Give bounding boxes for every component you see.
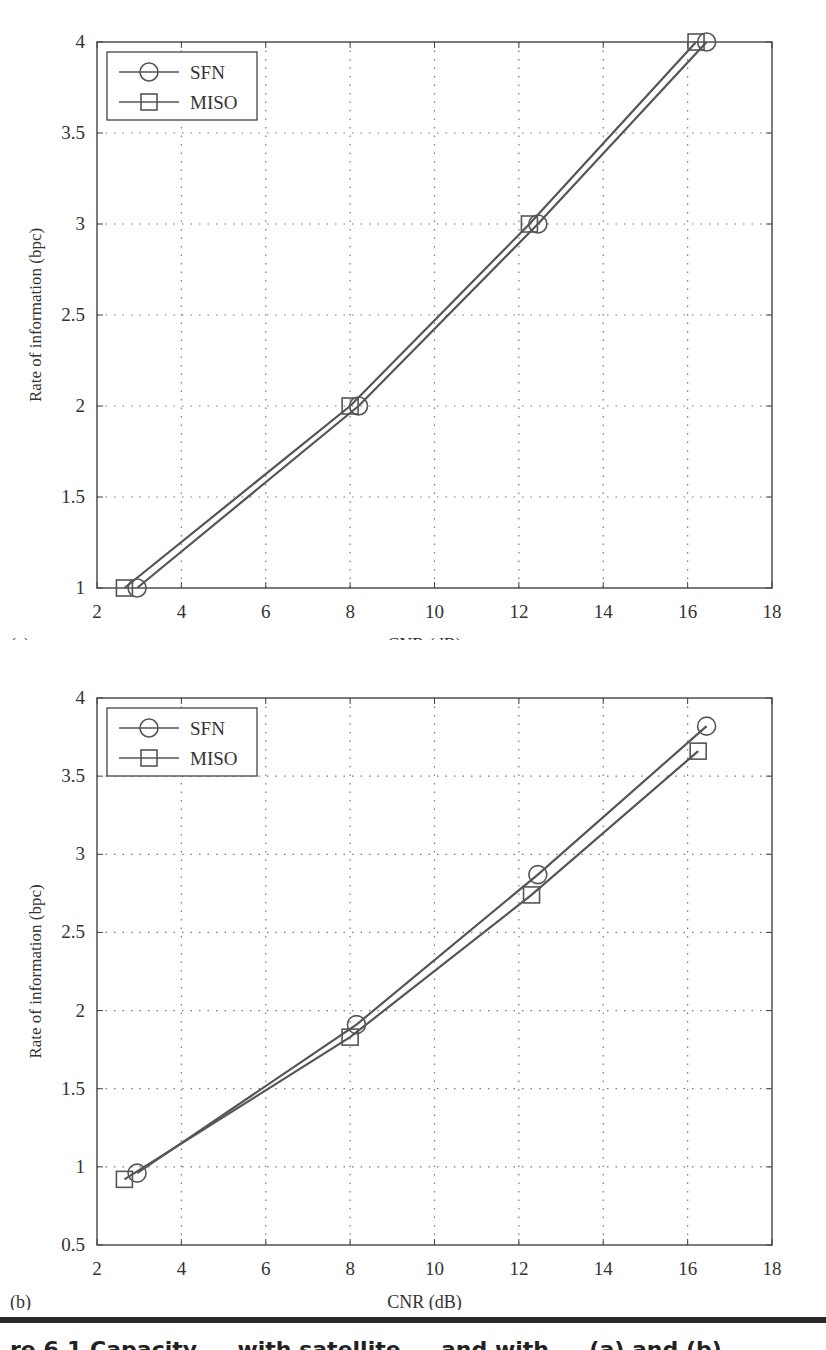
series-line bbox=[137, 726, 707, 1173]
legend-label: SFN bbox=[190, 718, 225, 739]
x-tick-label: 14 bbox=[594, 601, 614, 622]
y-axis-label: Rate of information (bpc) bbox=[26, 884, 45, 1058]
x-axis-label: CNR (dB) bbox=[387, 635, 462, 640]
x-tick-label: 6 bbox=[261, 601, 271, 622]
legend: SFNMISO bbox=[107, 52, 257, 120]
x-tick-label: 12 bbox=[509, 601, 528, 622]
y-tick-label: 2 bbox=[76, 395, 86, 416]
y-tick-label: 1.5 bbox=[61, 486, 85, 507]
series-sfn bbox=[128, 717, 716, 1182]
y-tick-label: 3.5 bbox=[61, 765, 85, 786]
legend-label: SFN bbox=[190, 62, 225, 83]
y-tick-label: 4 bbox=[76, 31, 86, 52]
y-tick-label: 1 bbox=[76, 1156, 86, 1177]
y-tick-label: 2.5 bbox=[61, 921, 85, 942]
y-tick-label: 2 bbox=[76, 1000, 86, 1021]
legend-label: MISO bbox=[190, 748, 238, 769]
x-tick-label: 14 bbox=[594, 1258, 614, 1279]
x-tick-label: 18 bbox=[763, 1258, 782, 1279]
y-tick-label: 1 bbox=[76, 577, 86, 598]
y-tick-label: 2.5 bbox=[61, 304, 85, 325]
caption-rule bbox=[0, 1317, 826, 1323]
circle-marker bbox=[698, 717, 716, 735]
series-line bbox=[124, 42, 696, 588]
x-tick-label: 8 bbox=[345, 601, 355, 622]
legend-label: MISO bbox=[190, 92, 238, 113]
x-tick-label: 10 bbox=[425, 601, 444, 622]
x-axis-label: CNR (dB) bbox=[387, 1292, 462, 1310]
x-tick-label: 2 bbox=[92, 1258, 102, 1279]
x-tick-label: 16 bbox=[678, 601, 697, 622]
y-axis-label: Rate of information (bpc) bbox=[26, 228, 45, 402]
line-chart-a: 2468101214161811.522.533.54CNR (dB)Rate … bbox=[0, 0, 826, 640]
x-tick-label: 6 bbox=[261, 1258, 271, 1279]
x-tick-label: 2 bbox=[92, 601, 102, 622]
x-tick-label: 16 bbox=[678, 1258, 697, 1279]
y-tick-label: 4 bbox=[76, 687, 86, 708]
line-chart-b: 246810121416180.511.522.533.54CNR (dB)Ra… bbox=[0, 650, 826, 1310]
y-tick-label: 3.5 bbox=[61, 122, 85, 143]
y-tick-label: 3 bbox=[76, 213, 86, 234]
x-tick-label: 18 bbox=[763, 601, 782, 622]
series-line bbox=[124, 751, 698, 1179]
y-tick-label: 1.5 bbox=[61, 1078, 85, 1099]
series-miso bbox=[116, 743, 706, 1187]
chart-panel-b: 246810121416180.511.522.533.54CNR (dB)Ra… bbox=[0, 650, 826, 1310]
figure-caption: re 6.1 Capacity ... with satellite ... a… bbox=[10, 1333, 826, 1350]
x-tick-label: 8 bbox=[345, 1258, 355, 1279]
x-tick-label: 4 bbox=[177, 601, 187, 622]
y-tick-label: 0.5 bbox=[61, 1234, 85, 1255]
y-tick-label: 3 bbox=[76, 843, 86, 864]
x-tick-label: 4 bbox=[177, 1258, 187, 1279]
x-tick-label: 10 bbox=[425, 1258, 444, 1279]
x-tick-label: 12 bbox=[509, 1258, 528, 1279]
chart-panel-a: 2468101214161811.522.533.54CNR (dB)Rate … bbox=[0, 0, 826, 640]
panel-label: (b) bbox=[10, 1292, 31, 1310]
legend: SFNMISO bbox=[107, 708, 257, 776]
panel-label: (a) bbox=[10, 635, 30, 640]
